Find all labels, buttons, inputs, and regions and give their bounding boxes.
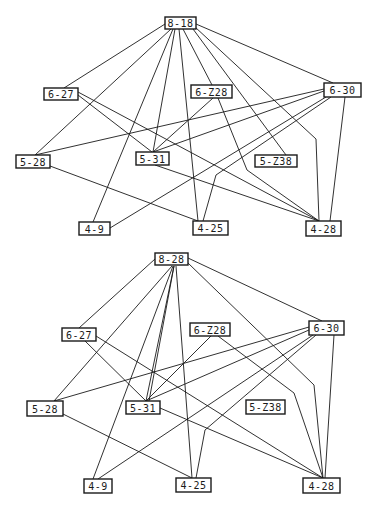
node-6-27: 6-27 — [62, 328, 96, 341]
edge-6-27-to-5-31 — [78, 95, 152, 152]
node-5-31: 5-31 — [136, 152, 169, 165]
edge-8-28-to-4-28 — [188, 263, 323, 478]
node-4-25: 4-25 — [176, 478, 211, 492]
edge-6-30-to-5-31 — [146, 330, 309, 401]
node-4-28: 4-28 — [306, 221, 341, 236]
node-6-z28: 6-Z28 — [190, 323, 230, 336]
node-5-31: 5-31 — [126, 401, 160, 414]
edge-8-28-to-6-27 — [79, 259, 155, 328]
node-label: 4-28 — [308, 481, 334, 492]
edge-6-30-to-5-31 — [153, 91, 324, 152]
node-label: 5-31 — [139, 154, 165, 165]
node-label: 5-28 — [20, 157, 46, 168]
edge-5-31-to-4-28 — [155, 165, 319, 221]
node-label: 6-30 — [329, 85, 355, 96]
edge-5-28-to-4-25 — [50, 166, 198, 221]
edge-5-31-to-4-28 — [160, 408, 323, 478]
diagram-canvas: 8-186-276-Z286-305-285-315-Z384-94-254-2… — [0, 0, 372, 511]
node-label: 6-Z28 — [194, 325, 227, 336]
edge-8-18-to-4-9 — [93, 29, 173, 222]
node-label: 5-28 — [32, 404, 58, 415]
node-4-28: 4-28 — [303, 478, 340, 493]
bottom-graph-nodes: 8-286-276-Z286-305-285-315-Z384-94-254-2… — [27, 253, 344, 493]
node-label: 5-Z38 — [260, 156, 293, 167]
graph-diagrams: 8-186-276-Z286-305-285-315-Z384-94-254-2… — [0, 0, 372, 511]
node-6-27: 6-27 — [44, 88, 78, 100]
node-6-30: 6-30 — [324, 83, 361, 97]
edge-8-18-to-6-30 — [196, 24, 333, 83]
node-label: 6-Z28 — [195, 87, 228, 98]
edge-6-z28-to-5-31 — [153, 98, 213, 152]
node-label: 5-31 — [130, 403, 156, 414]
node-5-28: 5-28 — [27, 401, 63, 416]
bottom-graph: 8-286-276-Z286-305-285-315-Z384-94-254-2… — [27, 253, 344, 493]
node-label: 4-25 — [180, 480, 206, 491]
node-5-z38: 5-Z38 — [255, 155, 297, 167]
edge-6-30-to-4-28 — [325, 335, 334, 478]
node-label: 4-28 — [310, 224, 336, 235]
node-4-9: 4-9 — [84, 479, 112, 493]
edge-6-z28-to-5-31 — [146, 336, 211, 401]
edge-8-18-to-6-27 — [64, 24, 165, 88]
node-4-9: 4-9 — [79, 222, 110, 235]
edge-8-28-to-4-25 — [176, 266, 192, 478]
node-5-z38: 5-Z38 — [246, 400, 285, 414]
node-8-18: 8-18 — [165, 17, 196, 29]
node-8-28: 8-28 — [155, 253, 188, 265]
node-6-30: 6-30 — [309, 321, 344, 335]
node-5-28: 5-28 — [16, 155, 50, 168]
node-label: 6-27 — [66, 330, 92, 341]
node-label: 4-9 — [88, 481, 108, 492]
node-label: 8-18 — [167, 18, 193, 29]
edge-8-18-to-6-z28 — [183, 29, 212, 85]
edge-6-30-to-4-28 — [330, 97, 345, 221]
edge-8-28-to-6-30 — [188, 258, 322, 321]
node-label: 4-9 — [85, 224, 105, 235]
top-graph-edges — [35, 24, 345, 228]
edge-8-28-to-4-9 — [93, 266, 173, 479]
edge-6-27-to-5-31 — [85, 341, 146, 401]
node-label: 6-27 — [48, 89, 74, 100]
node-label: 5-Z38 — [249, 402, 282, 413]
node-6-z28: 6-Z28 — [191, 85, 232, 98]
edge-8-28-to-5-31b — [146, 266, 174, 401]
bottom-graph-edges — [54, 258, 334, 479]
node-label: 4-25 — [197, 223, 223, 234]
node-label: 6-30 — [313, 323, 339, 334]
edge-8-18-to-4-25 — [179, 29, 198, 221]
node-label: 8-28 — [158, 254, 184, 265]
node-4-25: 4-25 — [193, 221, 228, 235]
edge-5-28-to-4-25 — [63, 414, 192, 478]
top-graph: 8-186-276-Z286-305-285-315-Z384-94-254-2… — [16, 17, 361, 236]
edge-8-18-to-4-28 — [195, 27, 319, 221]
